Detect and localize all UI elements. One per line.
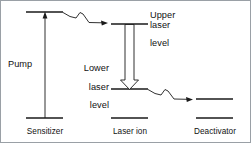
upper-laser-level-label: Upper laser level bbox=[150, 11, 210, 29]
energy-level-diagram: Pump Upper laser level Lower laser level… bbox=[0, 0, 251, 143]
diagram-canvas bbox=[1, 1, 251, 143]
lower-laser-level-label-line-3: level bbox=[49, 101, 109, 110]
upper-laser-level-label-line-3: level bbox=[150, 39, 210, 48]
energy-transfer-arrow-sensitizer-to-laser-ion bbox=[63, 13, 108, 26]
upper-laser-level-label-line-2: laser bbox=[150, 21, 210, 30]
pump-label: Pump bbox=[8, 60, 48, 69]
energy-transfer-arrow-laser-ion-to-deactivator bbox=[148, 90, 193, 102]
laser-transition-arrow bbox=[121, 25, 139, 90]
lower-laser-level-label: Lower laser level bbox=[49, 64, 109, 92]
deactivator-label: Deactivator bbox=[182, 127, 248, 136]
lower-laser-level-label-line-2: laser bbox=[49, 83, 109, 92]
sensitizer-label: Sensitizer bbox=[14, 127, 76, 136]
upper-laser-level-label-line-1: Upper bbox=[150, 11, 175, 20]
laser-ion-label: Laser ion bbox=[99, 127, 161, 136]
lower-laser-level-label-line-1: Lower bbox=[49, 64, 109, 73]
